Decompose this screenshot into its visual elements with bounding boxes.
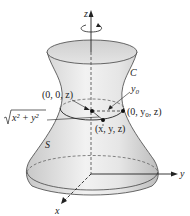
z-axis-arrowhead — [89, 10, 94, 17]
top-opening — [47, 40, 137, 64]
point-curve-label: (0, y0, z) — [127, 106, 162, 119]
curve-label-c: C — [130, 67, 137, 78]
surface-label-s: S — [45, 139, 50, 150]
y-axis-label: y — [179, 168, 185, 179]
z-axis-label: z — [83, 8, 88, 19]
radius-label: x² + y² — [11, 112, 40, 123]
point-general-label: (x, y, z) — [95, 123, 125, 135]
x-axis-arrowhead — [61, 197, 67, 204]
surface-of-revolution-diagram: z y x C y0 (0, 0, z) (0, y0, z) (x, y, z… — [0, 0, 190, 216]
point-general-x-y-z — [101, 118, 105, 122]
x-axis-label: x — [54, 205, 60, 216]
y0-label: y0 — [130, 83, 139, 96]
point-curve-0-y0-z — [121, 109, 125, 113]
point-axis-0-0-z — [90, 109, 94, 113]
rotation-arrowhead — [96, 23, 101, 27]
point-axis-label: (0, 0, z) — [42, 89, 73, 101]
y-axis-arrowhead — [171, 172, 178, 177]
